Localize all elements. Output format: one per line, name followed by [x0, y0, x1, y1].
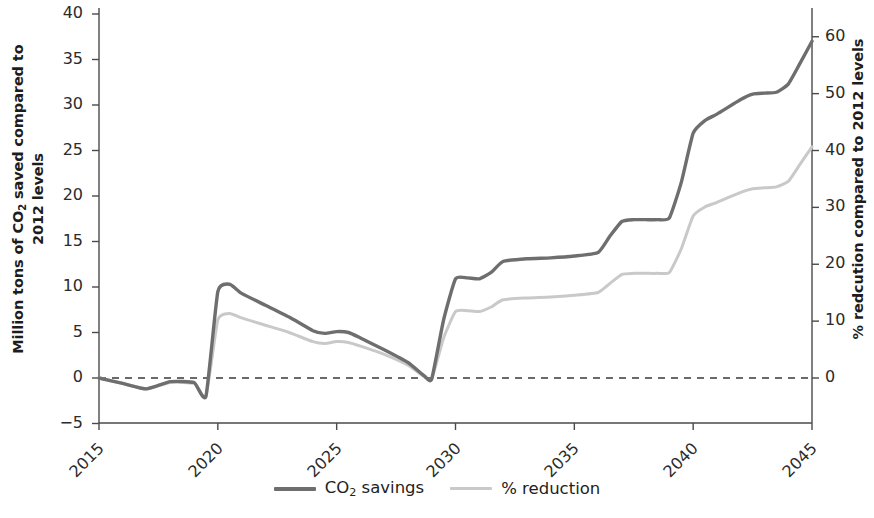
x-axis-ticks — [99, 423, 812, 430]
chart-legend: CO2 savings % reduction — [0, 478, 874, 499]
legend-swatch-co2-savings — [274, 487, 316, 491]
y-tick-label-left: 15 — [43, 231, 83, 250]
series-line-percent-reduction — [99, 147, 812, 397]
y-tick-label-right: 40 — [825, 140, 865, 159]
y-axis-right-title: % redcution compared to 2012 levels — [849, 19, 867, 359]
y-axis-right-ticks — [812, 37, 819, 378]
axis-lines — [99, 8, 812, 423]
y-tick-label-left: 10 — [43, 276, 83, 295]
y-axis-left-ticks — [92, 14, 99, 424]
y-tick-label-left: 5 — [43, 322, 83, 341]
legend-swatch-percent-reduction — [450, 487, 492, 490]
y-tick-label-left: 40 — [43, 3, 83, 22]
y-tick-label-left: 0 — [43, 367, 83, 386]
y-tick-label-right: 60 — [825, 26, 865, 45]
y-axis-left-title-text-a: Million tons of CO — [10, 211, 26, 354]
plot-area — [0, 0, 874, 518]
y-tick-label-right: 20 — [825, 253, 865, 272]
y-tick-label-right: 30 — [825, 196, 865, 215]
y-axis-left-title-subscript: 2 — [17, 204, 28, 211]
y-tick-label-left: 20 — [43, 185, 83, 204]
y-tick-label-left: 25 — [43, 140, 83, 159]
legend-item-percent-reduction: % reduction — [450, 479, 600, 498]
chart-figure: Million tons of CO2 saved compared to 20… — [0, 0, 874, 518]
y-tick-label-left: 35 — [43, 49, 83, 68]
legend-item-co2-savings: CO2 savings — [274, 478, 425, 499]
legend-label-percent-reduction: % reduction — [501, 479, 600, 498]
y-tick-label-left: −5 — [43, 413, 83, 432]
y-axis-left-title: Million tons of CO2 saved compared to 20… — [9, 29, 47, 369]
legend-label-co2-savings: CO2 savings — [325, 478, 425, 499]
y-tick-label-right: 10 — [825, 310, 865, 329]
y-tick-label-right: 50 — [825, 83, 865, 102]
y-tick-label-right: 0 — [825, 367, 865, 386]
y-tick-label-left: 30 — [43, 94, 83, 113]
data-series-group — [99, 41, 812, 398]
series-line-co2-savings — [99, 41, 812, 398]
